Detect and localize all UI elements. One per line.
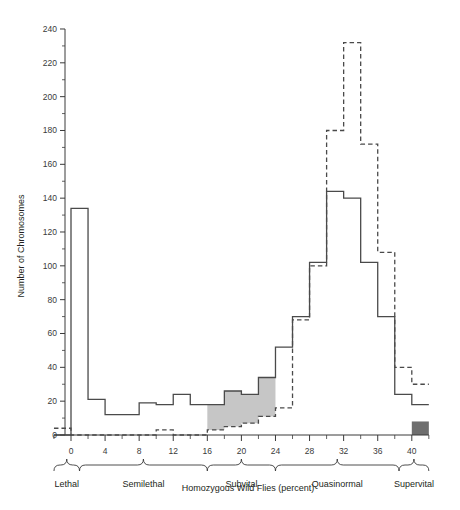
y-tick-label: 140 <box>43 193 57 203</box>
data-series-layer <box>54 43 429 435</box>
y-tick-label: 80 <box>48 295 58 305</box>
y-tick-label: 220 <box>43 58 57 68</box>
y-axis-title: Number of Chromosomes <box>16 194 26 298</box>
category-bracket <box>207 459 275 471</box>
y-tick-label: 120 <box>43 227 57 237</box>
dashed-histogram-line <box>54 43 429 435</box>
y-tick-label: 180 <box>43 125 57 135</box>
axes-layer <box>54 29 429 441</box>
y-tick-label: 0 <box>52 430 57 440</box>
fly-viability-histogram-chart: 0204060801001201401601802002202400481216… <box>0 0 460 510</box>
y-tick-label: 240 <box>43 24 57 34</box>
x-tick-label: 40 <box>407 446 417 456</box>
y-tick-label: 40 <box>48 362 58 372</box>
x-tick-label: 36 <box>373 446 383 456</box>
x-tick-label: 8 <box>137 446 142 456</box>
category-bracket <box>275 459 399 471</box>
category-label: Quasinormal <box>312 479 363 489</box>
x-tick-label: 20 <box>237 446 247 456</box>
y-tick-label: 160 <box>43 159 57 169</box>
x-axis-title: Homozygous Wild Flies (percent) <box>182 483 315 493</box>
x-tick-label: 12 <box>169 446 179 456</box>
x-tick-label: 28 <box>305 446 315 456</box>
category-bracket <box>80 459 208 471</box>
y-tick-label: 200 <box>43 92 57 102</box>
x-tick-label: 24 <box>271 446 281 456</box>
category-bracket <box>54 459 80 471</box>
y-tick-label: 20 <box>48 396 58 406</box>
chart-canvas: 0204060801001201401601802002202400481216… <box>0 0 460 510</box>
category-label: Supervital <box>394 479 434 489</box>
y-tick-label: 100 <box>43 261 57 271</box>
category-label: Lethal <box>54 479 79 489</box>
x-tick-label: 4 <box>103 446 108 456</box>
supervital-shaded-box <box>412 421 429 435</box>
category-bracket <box>399 459 429 471</box>
x-tick-label: 0 <box>69 446 74 456</box>
category-label: Semilethal <box>122 479 164 489</box>
x-tick-label: 32 <box>339 446 349 456</box>
y-tick-label: 60 <box>48 328 58 338</box>
x-tick-label: 16 <box>203 446 213 456</box>
